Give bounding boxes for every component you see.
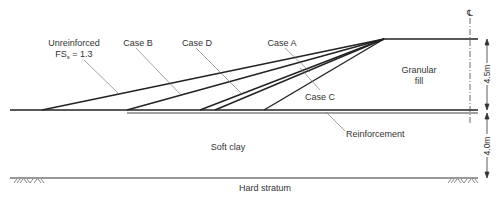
slope-case-d — [200, 39, 384, 110]
dimension-height-label: 4.5m — [482, 65, 492, 84]
label-unreinforced: Unreinforced — [48, 38, 100, 48]
label-case-c: Case C — [305, 92, 336, 102]
label-hard-stratum: Hard stratum — [239, 183, 291, 193]
hatch-right — [448, 179, 478, 183]
label-case-d: Case D — [182, 38, 213, 48]
label-granular-fill-2: fill — [415, 76, 424, 86]
label-reinforcement: Reinforcement — [346, 129, 405, 139]
hatch-left — [14, 179, 44, 183]
embankment-diagram: ℄ 4.5m 4.0m Unreinforced FSs = 1.3 Case … — [0, 0, 502, 201]
slope-case-a — [215, 39, 384, 110]
label-granular-fill-1: Granular — [401, 65, 436, 75]
label-case-b: Case B — [123, 38, 153, 48]
slope-case-b — [127, 39, 384, 110]
label-soft-clay: Soft clay — [211, 142, 246, 152]
label-case-a: Case A — [267, 38, 296, 48]
label-fs: FSs = 1.3 — [55, 49, 92, 60]
centerline-symbol: ℄ — [466, 8, 473, 18]
dimension-clay-label: 4.0m — [482, 137, 492, 156]
